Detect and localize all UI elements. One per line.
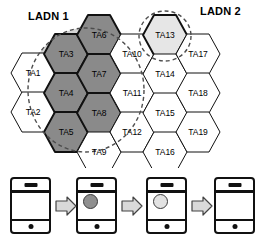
hex-label-ta11: TA11: [123, 88, 142, 98]
ladn2-label: LADN 2: [200, 5, 241, 17]
hex-label-ta9: TA9: [92, 147, 107, 157]
hex-label-ta15: TA15: [155, 108, 174, 118]
hex-label-ta16: TA16: [155, 147, 174, 157]
hex-label-ta13: TA13: [155, 30, 174, 40]
hex-label-ta1: TA1: [26, 68, 41, 78]
hex-label-ta17: TA17: [188, 49, 207, 59]
right-arrow-icon: [122, 197, 142, 215]
right-arrow-icon: [192, 197, 212, 215]
ue-session-sequence: [0, 168, 267, 240]
transition-arrow-3: [192, 197, 212, 215]
figure-root: LADN 1 LADN 2 TA1TA2TA3TA4TA5TA6TA7TA8TA…: [0, 0, 267, 240]
hex-label-ta10: TA10: [122, 49, 141, 59]
hex-grid-svg: [0, 0, 267, 168]
ladn1-label: LADN 1: [28, 10, 69, 22]
transition-arrow-1: [56, 197, 76, 215]
arrow-layer: [0, 168, 267, 240]
hex-label-ta6: TA6: [92, 30, 107, 40]
hex-label-ta12: TA12: [122, 127, 141, 137]
hex-label-ta2: TA2: [26, 107, 41, 117]
hex-label-ta14: TA14: [155, 69, 174, 79]
hex-label-ta19: TA19: [188, 127, 207, 137]
hex-label-ta8: TA8: [92, 108, 107, 118]
transition-arrow-2: [122, 197, 142, 215]
hex-label-ta5: TA5: [59, 127, 74, 137]
hex-label-ta18: TA18: [188, 88, 207, 98]
hex-label-ta3: TA3: [59, 49, 74, 59]
hex-label-ta7: TA7: [92, 69, 107, 79]
hex-label-ta4: TA4: [59, 88, 74, 98]
tracking-area-map: LADN 1 LADN 2 TA1TA2TA3TA4TA5TA6TA7TA8TA…: [0, 0, 267, 168]
right-arrow-icon: [56, 197, 76, 215]
